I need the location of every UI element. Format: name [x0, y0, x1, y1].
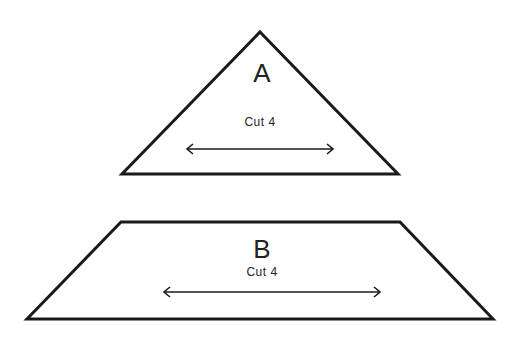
piece-a-cut-instruction: Cut 4: [244, 115, 275, 129]
piece-a-label: A: [253, 58, 270, 89]
pattern-diagram: [0, 0, 527, 343]
piece-a-triangle: [122, 32, 398, 174]
piece-b-cut-instruction: Cut 4: [246, 265, 277, 279]
piece-b-label: B: [253, 234, 270, 265]
piece-b-grain-arrow-icon: [164, 287, 380, 297]
piece-a-grain-arrow-icon: [187, 144, 333, 154]
